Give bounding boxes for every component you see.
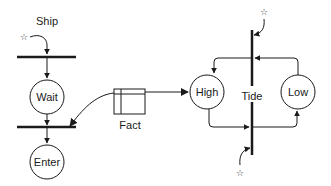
arc-tide-to-high bbox=[214, 58, 252, 73]
arc-low-to-tide bbox=[255, 58, 298, 75]
arc-tide-to-low bbox=[252, 111, 297, 127]
place-enter: Enter bbox=[30, 145, 64, 179]
place-enter-label: Enter bbox=[34, 156, 61, 168]
ship-group: Ship ☆ bbox=[20, 15, 58, 54]
arc-top-star-to-tide bbox=[254, 19, 264, 35]
petri-net-diagram: Ship ☆ Wait Enter Fact Tide Tide ☆ ☆ H bbox=[0, 0, 331, 186]
arc-high-to-tide bbox=[209, 109, 249, 127]
place-high: High bbox=[190, 75, 224, 109]
arc-fact-to-enter-transition bbox=[70, 93, 114, 126]
tide-top-token-star-icon: ☆ bbox=[260, 7, 268, 17]
fact-box: Fact bbox=[114, 89, 145, 131]
ship-token-star-icon: ☆ bbox=[20, 32, 28, 42]
place-wait-label: Wait bbox=[36, 91, 58, 103]
tide-bottom-token-star-icon: ☆ bbox=[236, 168, 244, 178]
place-high-label: High bbox=[196, 86, 219, 98]
place-low-label: Low bbox=[288, 86, 308, 98]
fact-label: Fact bbox=[119, 119, 140, 131]
ship-arrival-arc bbox=[30, 36, 47, 54]
tide-label-text: Tide bbox=[242, 90, 263, 102]
arc-bottom-star-to-tide bbox=[240, 148, 250, 165]
place-wait: Wait bbox=[30, 80, 64, 114]
ship-label: Ship bbox=[36, 15, 58, 27]
place-low: Low bbox=[281, 75, 315, 109]
